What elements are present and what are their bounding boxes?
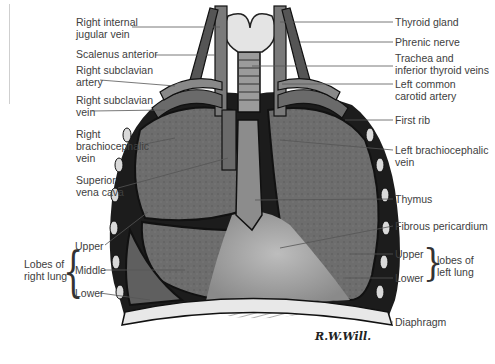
- label-fibrous-pericardium: Fibrous pericardium: [395, 220, 488, 232]
- label-left-lower-lobe: Lower: [395, 272, 424, 284]
- thymus: [236, 120, 262, 230]
- label-right-upper-lobe: Upper: [75, 240, 104, 252]
- label-trachea-inferior-thyroid-veins: Trachea and inferior thyroid veins: [395, 52, 489, 76]
- label-superior-vena-cava: Superior vena cava: [76, 174, 124, 198]
- label-left-brachiocephalic-vein: Left brachiocephalic vein: [395, 144, 488, 168]
- label-left-common-carotid-artery: Left common carotid artery: [395, 78, 456, 102]
- label-diaphragm: Diaphragm: [395, 316, 446, 328]
- label-scalenus-anterior: Scalenus anterior: [76, 48, 158, 60]
- label-thyroid-gland: Thyroid gland: [395, 16, 459, 28]
- label-lobes-of-left-lung: lobes of left lung: [437, 254, 474, 278]
- label-right-middle-lobe: Middle: [75, 264, 106, 276]
- label-right-internal-jugular-vein: Right internal jugular vein: [76, 16, 138, 40]
- thyroid-gland: [225, 14, 276, 52]
- scalenus-anterior-right: [190, 8, 218, 82]
- label-first-rib: First rib: [395, 114, 430, 126]
- label-left-upper-lobe: Upper: [395, 248, 424, 260]
- label-right-lower-lobe: Lower: [75, 287, 104, 299]
- label-right-subclavian-artery: Right subclavian artery: [76, 64, 153, 88]
- label-right-subclavian-vein: Right subclavian vein: [76, 94, 153, 118]
- label-lobes-of-right-lung: Lobes of right lung: [24, 258, 67, 282]
- label-phrenic-nerve: Phrenic nerve: [395, 36, 460, 48]
- artist-signature: R.W.Will.: [314, 330, 371, 343]
- label-thymus: Thymus: [395, 193, 432, 205]
- label-right-brachiocephalic-vein: Right brachiocephalic vein: [76, 128, 149, 164]
- superior-vena-cava: [222, 110, 236, 170]
- trachea: [238, 52, 260, 112]
